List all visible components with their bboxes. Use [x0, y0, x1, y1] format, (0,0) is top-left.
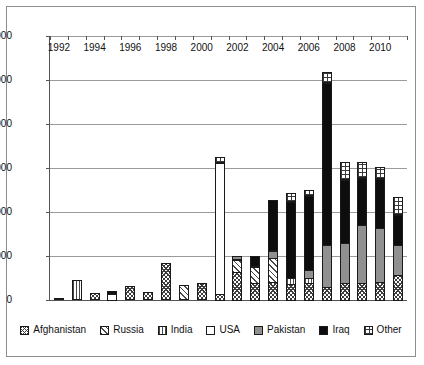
bar-2007[interactable]: [322, 69, 332, 300]
bar-1999[interactable]: [179, 285, 189, 300]
bar-2003[interactable]: [250, 254, 260, 300]
x-tick-mark-2005: [282, 36, 283, 40]
bar-segment-afghanistan-2007: [322, 287, 332, 301]
bar-segment-iraq-2010: [375, 179, 385, 230]
bar-2004[interactable]: [268, 197, 278, 300]
chart-frame: 0100020003000400050006000 19921994199619…: [6, 6, 416, 357]
x-tick-label-2000: 2000: [185, 42, 219, 53]
x-tick-mark-1998: [157, 36, 158, 40]
bar-segment-afghanistan-2006: [304, 283, 314, 301]
bar-segment-usa-1995: [107, 294, 117, 301]
legend-label-afghanistan: Afghanistan: [33, 325, 86, 335]
x-tick-mark-1992: [50, 36, 51, 40]
chart-legend: AfghanistanRussiaIndiaUSAPakistanIraqOth…: [7, 322, 415, 338]
legend-item-other[interactable]: Other: [364, 325, 402, 335]
bar-segment-afghanistan-2001: [215, 294, 225, 301]
bar-segment-afghanistan-1994: [90, 293, 100, 300]
bar-1997[interactable]: [143, 292, 153, 300]
bar-segment-russia-2004: [268, 258, 278, 283]
bar-2006[interactable]: [304, 186, 314, 300]
bar-2011[interactable]: [393, 194, 403, 300]
y-tick-mark-0: [46, 300, 50, 301]
bar-series-group: [50, 36, 407, 300]
y-tick-label-6000: 6000: [0, 31, 12, 41]
legend-swatch-pakistan: [254, 326, 263, 335]
bar-segment-pakistan-2011: [393, 245, 403, 276]
bar-2009[interactable]: [357, 159, 367, 300]
x-tick-mark-2011: [389, 36, 390, 40]
x-tick-mark-2008: [336, 36, 337, 40]
x-tick-mark-2003: [246, 36, 247, 40]
legend-swatch-usa: [206, 326, 215, 335]
legend-label-india: India: [171, 325, 193, 335]
legend-item-iraq[interactable]: Iraq: [319, 325, 349, 335]
x-tick-label-1998: 1998: [149, 42, 183, 53]
bar-segment-pakistan-2007: [322, 245, 332, 288]
bar-segment-afghanistan-2008: [340, 283, 350, 301]
legend-label-pakistan: Pakistan: [267, 325, 305, 335]
legend-item-india[interactable]: India: [158, 325, 193, 335]
bar-2008[interactable]: [340, 159, 350, 300]
y-tick-label-0: 0: [0, 295, 12, 305]
x-tick-label-2002: 2002: [220, 42, 254, 53]
bar-segment-afghanistan-1997: [143, 292, 153, 300]
legend-swatch-iraq: [319, 326, 328, 335]
y-tick-label-4000: 4000: [0, 119, 12, 129]
bar-segment-pakistan-2009: [357, 225, 367, 284]
bar-1993[interactable]: [72, 280, 82, 300]
bar-segment-iraq-2003: [250, 256, 260, 267]
y-tick-label-3000: 3000: [0, 163, 12, 173]
bar-segment-pakistan-2010: [375, 228, 385, 283]
bar-segment-other-2001: [215, 157, 225, 164]
x-tick-mark-2000: [193, 36, 194, 40]
x-tick-label-1994: 1994: [78, 42, 112, 53]
bar-segment-iraq-2006: [304, 196, 314, 271]
bar-1992[interactable]: [54, 298, 64, 300]
bar-segment-other-2006: [304, 190, 314, 197]
bar-2010[interactable]: [375, 164, 385, 300]
x-tick-label-2006: 2006: [292, 42, 326, 53]
x-tick-mark-2004: [264, 36, 265, 40]
legend-label-russia: Russia: [113, 325, 144, 335]
x-tick-mark-2002: [229, 36, 230, 40]
legend-item-usa[interactable]: USA: [206, 325, 240, 335]
bar-2001[interactable]: [215, 155, 225, 300]
bar-2002[interactable]: [232, 254, 242, 300]
x-tick-label-1996: 1996: [113, 42, 147, 53]
bar-segment-afghanistan-2002: [232, 272, 242, 301]
bar-1996[interactable]: [125, 286, 135, 300]
bar-1995[interactable]: [107, 290, 117, 300]
bar-segment-usa-2001: [215, 163, 225, 295]
x-tick-mark-end: [407, 36, 408, 40]
x-tick-mark-1996: [121, 36, 122, 40]
bar-segment-afghanistan-1996: [125, 286, 135, 300]
bar-1994[interactable]: [90, 293, 100, 300]
x-tick-mark-2006: [300, 36, 301, 40]
x-tick-label-2010: 2010: [363, 42, 397, 53]
bar-segment-other-2011: [393, 197, 403, 215]
x-tick-label-2008: 2008: [328, 42, 362, 53]
bar-2005[interactable]: [286, 190, 296, 300]
legend-label-other: Other: [377, 325, 402, 335]
bar-segment-iraq-2009: [357, 178, 367, 226]
legend-item-pakistan[interactable]: Pakistan: [254, 325, 305, 335]
bar-segment-iraq-2011: [393, 215, 403, 246]
x-tick-mark-2009: [353, 36, 354, 40]
bar-2000[interactable]: [197, 283, 207, 300]
y-tick-label-1000: 1000: [0, 251, 12, 261]
bar-segment-russia-2003: [250, 267, 260, 285]
legend-swatch-afghanistan: [20, 326, 29, 335]
bar-segment-afghanistan-2003: [250, 283, 260, 301]
bar-segment-iraq-2005: [286, 202, 296, 279]
legend-item-russia[interactable]: Russia: [100, 325, 144, 335]
bar-segment-other-2010: [375, 167, 385, 179]
chart-canvas: 0100020003000400050006000 19921994199619…: [7, 7, 417, 358]
bar-segment-other-2005: [286, 193, 296, 202]
legend-swatch-india: [158, 326, 167, 335]
legend-item-afghanistan[interactable]: Afghanistan: [20, 325, 86, 335]
legend-swatch-russia: [100, 326, 109, 335]
bar-1998[interactable]: [161, 263, 171, 300]
x-tick-mark-1995: [104, 36, 105, 40]
bar-segment-iraq-2007: [322, 83, 332, 246]
x-tick-mark-2001: [211, 36, 212, 40]
